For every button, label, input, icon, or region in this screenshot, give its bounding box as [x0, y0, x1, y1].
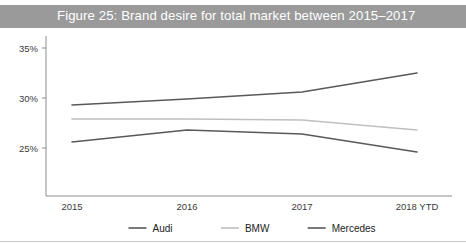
x-axis-tick-label: 2017 — [291, 201, 312, 212]
figure-container: Figure 25: Brand desire for total market… — [0, 0, 466, 244]
x-axis-tick-label: 2018 YTD — [396, 201, 439, 212]
bottom-divider — [0, 241, 466, 242]
y-axis-tick-label: 35% — [19, 43, 39, 54]
series-line-bmw — [72, 119, 417, 130]
y-axis-tick-label: 30% — [19, 93, 39, 104]
legend-label-bmw: BMW — [245, 223, 270, 234]
series-line-mercedes — [72, 130, 417, 152]
figure-title-bar: Figure 25: Brand desire for total market… — [0, 5, 466, 28]
y-axis-tick-label: 25% — [19, 143, 39, 154]
series-line-audi — [72, 73, 417, 105]
legend-label-audi: Audi — [153, 223, 173, 234]
line-chart: 35%30%25%2015201620172018 YTDAudiBMWMerc… — [0, 28, 466, 244]
x-axis-tick-label: 2016 — [176, 201, 197, 212]
chart-plot-area: 35%30%25%2015201620172018 YTDAudiBMWMerc… — [0, 28, 466, 244]
x-axis-tick-label: 2015 — [61, 201, 82, 212]
figure-title: Figure 25: Brand desire for total market… — [57, 8, 415, 23]
legend-label-mercedes: Mercedes — [332, 223, 376, 234]
